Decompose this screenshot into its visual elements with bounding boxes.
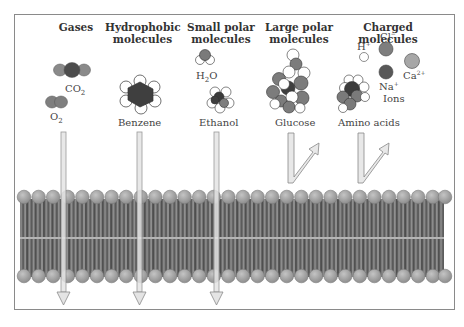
diagram-graphics bbox=[0, 0, 464, 327]
label-co2: CO2 bbox=[65, 83, 85, 97]
benzene-molecule-icon bbox=[120, 75, 161, 114]
label-h2o: H2O bbox=[196, 70, 217, 84]
h-ion-icon bbox=[360, 53, 369, 62]
label-ions: Ions bbox=[383, 93, 405, 104]
glucose-molecule-icon bbox=[267, 49, 311, 113]
arrow-amino-acids-reflect bbox=[358, 133, 389, 183]
label-ethanol: Ethanol bbox=[199, 117, 238, 128]
o2-molecule-icon bbox=[46, 96, 68, 108]
label-ca-ion: Ca2+ bbox=[403, 69, 425, 81]
ethanol-molecule-icon bbox=[207, 87, 234, 113]
label-benzene: Benzene bbox=[118, 117, 161, 128]
ca-ion-icon bbox=[405, 54, 420, 69]
label-glucose: Glucose bbox=[275, 117, 315, 128]
h2o-molecule-icon bbox=[196, 50, 215, 65]
amino-acid-molecule-icon bbox=[337, 75, 370, 113]
label-na-ion: Na+ bbox=[379, 80, 399, 92]
na-ion-icon bbox=[379, 65, 393, 79]
label-o2: O2 bbox=[50, 111, 63, 125]
label-cl-ion: Cl− bbox=[380, 30, 396, 42]
lipid-bilayer bbox=[17, 190, 452, 283]
cl-ion-icon bbox=[379, 42, 393, 56]
upper-leaflet-tails bbox=[20, 199, 444, 237]
impermeable-arrows bbox=[288, 133, 389, 183]
label-amino-acids: Amino acids bbox=[338, 117, 400, 128]
label-h-ion: H+ bbox=[357, 40, 371, 52]
co2-molecule-icon bbox=[54, 63, 91, 78]
arrow-glucose-reflect bbox=[288, 133, 319, 183]
